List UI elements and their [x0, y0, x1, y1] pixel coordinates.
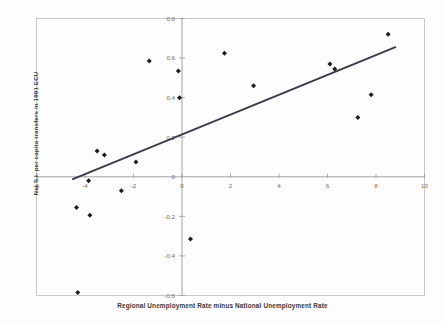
x-tick-label: -2 [131, 182, 137, 189]
y-tick-label: -0.4 [164, 252, 175, 259]
data-point [251, 83, 256, 88]
x-tick-label: 10 [421, 182, 428, 189]
data-point [369, 92, 374, 97]
x-tick-label: -4 [82, 182, 88, 189]
data-point [119, 188, 124, 193]
data-point [147, 59, 152, 64]
x-tick-label: 6 [326, 182, 330, 189]
data-point [102, 153, 107, 158]
x-axis-ticks: -6-4-20246810 [34, 174, 429, 189]
data-point [188, 237, 193, 242]
data-point [95, 149, 100, 154]
data-point [176, 68, 181, 73]
x-tick-label: -6 [34, 182, 40, 189]
regression-line [73, 47, 396, 179]
data-point [222, 51, 227, 56]
x-tick-label: 0 [180, 182, 184, 189]
data-point [177, 95, 182, 100]
data-point [133, 159, 138, 164]
data-point [327, 62, 332, 67]
y-tick-label: 0.4 [166, 94, 175, 101]
y-tick-label: -0.2 [164, 213, 175, 220]
x-tick-label: 8 [374, 182, 378, 189]
data-point [355, 115, 360, 120]
data-points [74, 32, 391, 295]
y-tick-label: 0.6 [166, 54, 175, 61]
y-tick-label: -0.6 [164, 292, 175, 299]
y-tick-label: 0.8 [166, 15, 175, 22]
x-axis-title: Regional Unemployment Rate minus Nationa… [0, 302, 445, 309]
data-point [75, 290, 80, 295]
scatter-plot: -6-4-20246810 -0.6-0.4-0.200.20.40.60.8 [0, 0, 445, 324]
data-point [386, 32, 391, 37]
data-point [74, 205, 79, 210]
figure-canvas: -6-4-20246810 -0.6-0.4-0.200.20.40.60.8 … [0, 0, 445, 324]
x-tick-label: 2 [229, 182, 233, 189]
y-tick-label: 0 [172, 173, 176, 180]
x-tick-label: 4 [277, 182, 281, 189]
data-point [87, 213, 92, 218]
